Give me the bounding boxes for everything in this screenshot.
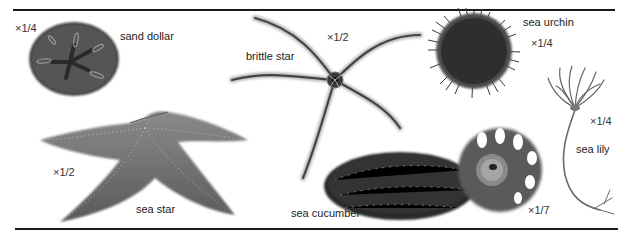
sea-star-scale: ×1/2 <box>53 166 75 178</box>
sea-urchin-scale: ×1/4 <box>531 37 553 49</box>
sea-lily-scale: ×1/4 <box>590 115 612 127</box>
brittle-star-scale: ×1/2 <box>327 31 349 43</box>
specimen-illustrations <box>0 0 628 234</box>
sand-dollar-illustration <box>29 22 119 96</box>
sea-lily-label: sea lily <box>576 143 610 155</box>
sea-cucumber-tentacle-crown <box>458 128 542 212</box>
sand-dollar-label: sand dollar <box>120 30 174 42</box>
sand-dollar-scale: ×1/4 <box>15 22 37 34</box>
sea-star-label: sea star <box>136 203 175 215</box>
sea-cucumber-scale: ×1/7 <box>528 204 550 216</box>
brittle-star-label: brittle star <box>246 50 294 62</box>
sea-cucumber-label: sea cucumber <box>291 207 360 219</box>
sea-urchin-label: sea urchin <box>523 16 574 28</box>
sea-urchin-illustration <box>428 8 520 98</box>
sea-lily-illustration <box>548 66 614 214</box>
